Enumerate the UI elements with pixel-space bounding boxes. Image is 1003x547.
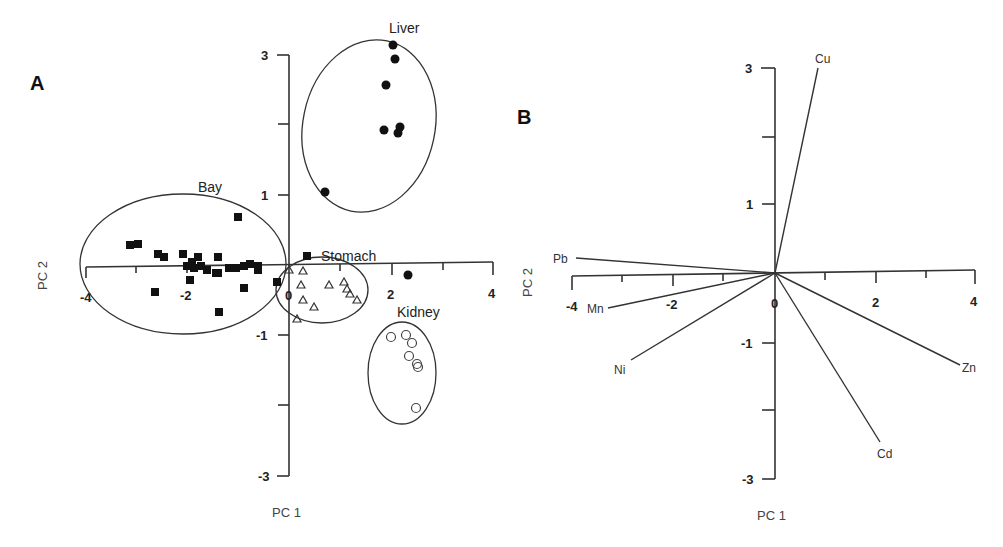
- panel-b-y-label: PC 2: [520, 268, 535, 297]
- svg-text:0: 0: [285, 288, 292, 303]
- svg-text:-3: -3: [258, 469, 270, 484]
- svg-text:2: 2: [872, 295, 879, 310]
- label-bay: Bay: [198, 179, 222, 195]
- svg-text:3: 3: [261, 48, 268, 63]
- panel-a-x-tick-labels: -4 -2 0 2 4: [80, 286, 496, 305]
- svg-text:3: 3: [745, 61, 752, 76]
- panel-a-group-ellipses: [80, 27, 452, 424]
- panel-b-x-label: PC 1: [757, 508, 786, 523]
- svg-text:-4: -4: [80, 290, 92, 305]
- svg-text:1: 1: [261, 188, 268, 203]
- vector-pb: [576, 258, 775, 273]
- svg-text:4: 4: [970, 294, 978, 309]
- ellipse-liver: [286, 27, 451, 225]
- panel-b-vectors: [576, 68, 960, 442]
- panel-b-label: B: [517, 106, 531, 128]
- points-stomach: [285, 266, 361, 322]
- svg-text:-4: -4: [566, 299, 578, 314]
- vector-zn: [775, 273, 960, 365]
- svg-text:1: 1: [746, 197, 753, 212]
- svg-text:0: 0: [771, 296, 778, 311]
- vector-ni: [631, 273, 775, 360]
- label-liver: Liver: [389, 20, 420, 36]
- panel-b: B -4 -2 0 2 4: [517, 52, 978, 523]
- svg-text:-1: -1: [741, 336, 753, 351]
- vector-label-cu: Cu: [815, 52, 830, 66]
- panel-a-axes: [86, 55, 493, 476]
- vector-label-ni: Ni: [614, 363, 625, 377]
- svg-text:-2: -2: [666, 297, 678, 312]
- svg-text:2: 2: [387, 287, 394, 302]
- panel-a-x-label: PC 1: [272, 505, 301, 520]
- vector-mn: [608, 273, 775, 308]
- vector-cu: [775, 68, 818, 273]
- label-kidney: Kidney: [397, 304, 440, 320]
- vector-label-pb: Pb: [553, 252, 568, 266]
- svg-text:-2: -2: [180, 288, 192, 303]
- points-kidney: [387, 331, 423, 413]
- panel-a-y-label: PC 2: [35, 261, 50, 290]
- panel-a-label: A: [30, 72, 44, 94]
- svg-text:-1: -1: [256, 328, 268, 343]
- vector-label-mn: Mn: [587, 302, 604, 316]
- figure: A -4 -2 0 2 4: [0, 0, 1003, 547]
- vector-label-zn: Zn: [962, 361, 976, 375]
- panel-a: A -4 -2 0 2 4: [30, 20, 496, 520]
- vector-label-cd: Cd: [877, 447, 892, 461]
- svg-text:4: 4: [488, 286, 496, 301]
- label-stomach: Stomach: [321, 248, 376, 264]
- points-liver: [321, 41, 413, 280]
- svg-text:-3: -3: [742, 472, 754, 487]
